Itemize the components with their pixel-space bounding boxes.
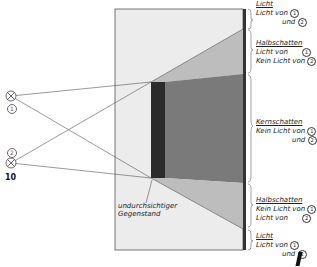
- zone-line2: und: [282, 250, 295, 258]
- source-ref-2: 2: [298, 18, 307, 27]
- zone-line1: Licht von: [256, 9, 288, 17]
- brace-light-top: [248, 9, 253, 29]
- object-label-line2: Gegenstand: [118, 211, 177, 219]
- zone-title: Kernschatten: [256, 119, 317, 127]
- brace-light-bottom: [248, 230, 253, 250]
- source-ref-1: 1: [290, 9, 299, 18]
- object-label: undurchsichtiger Gegenstand: [118, 203, 177, 218]
- screen-edge: [243, 9, 246, 250]
- zone-penumbra-bottom: Halbschatten Kein Licht von 1 Licht von …: [256, 197, 316, 223]
- source-ref-1: 1: [307, 205, 316, 214]
- zone-line1: Licht von: [256, 241, 288, 249]
- brace-penumbra-bottom: [248, 184, 253, 227]
- brace-penumbra-top: [248, 30, 253, 73]
- zone-umbra: Kernschatten Kein Licht von 1 und 2: [256, 119, 317, 145]
- zone-title: Halbschatten: [256, 197, 316, 205]
- source-ref-2: 2: [307, 57, 316, 66]
- source-ref-1: 1: [307, 127, 316, 136]
- opaque-object: [151, 82, 165, 178]
- source-2-label: 2: [7, 148, 17, 158]
- brace-umbra: [248, 75, 253, 182]
- source-ref-2: 2: [302, 214, 311, 223]
- light-source-2-icon: [6, 158, 16, 168]
- zone-line1: Licht von: [256, 48, 288, 56]
- zone-line1: Kein Licht von: [256, 127, 305, 135]
- light-source-1-icon: [6, 91, 16, 101]
- zone-line2: und: [292, 136, 305, 144]
- source-ref-1: 1: [302, 48, 311, 57]
- zone-title: Licht: [256, 233, 307, 241]
- zone-title: Licht: [256, 1, 307, 9]
- umbra: [165, 74, 243, 183]
- zone-line2: Licht von: [256, 214, 288, 222]
- zone-line1: Kein Licht von: [256, 205, 305, 213]
- zone-title: Halbschatten: [256, 40, 316, 48]
- zone-line2: Kein Licht von: [256, 57, 305, 65]
- zone-line2: und: [282, 18, 295, 26]
- zone-penumbra-top: Halbschatten Licht von 1 Kein Licht von …: [256, 40, 316, 66]
- source-1-label: 1: [7, 104, 17, 114]
- figure-number: 10: [5, 173, 16, 182]
- zone-light-top: Licht Licht von 1 und 2: [256, 1, 307, 27]
- source-ref-1: 1: [290, 241, 299, 250]
- source-ref-2: 2: [308, 136, 317, 145]
